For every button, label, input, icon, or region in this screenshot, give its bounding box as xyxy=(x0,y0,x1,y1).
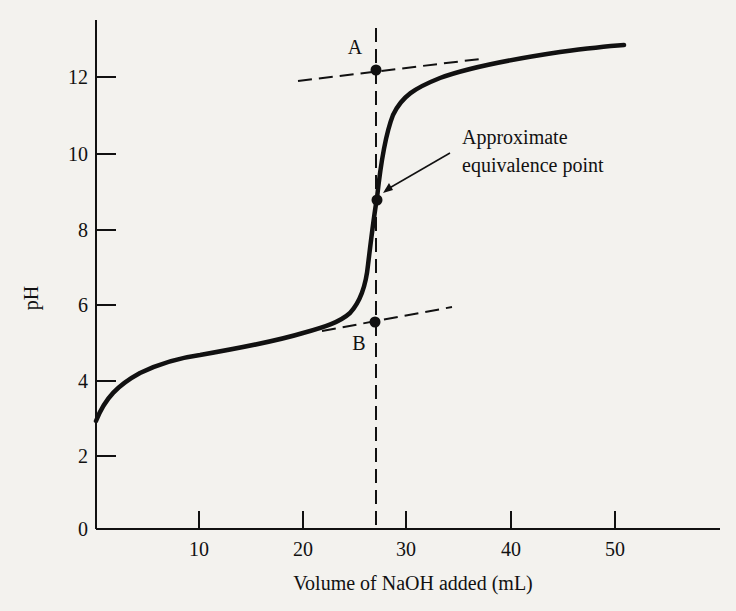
y-tick-label: 6 xyxy=(78,294,88,316)
upper-tangent-line xyxy=(298,59,480,81)
point-a-marker xyxy=(371,65,382,76)
equivalence-annotation: Approximate equivalence point xyxy=(383,126,604,193)
equivalence-label-line1: Approximate xyxy=(462,126,568,149)
x-ticks xyxy=(199,511,615,529)
x-tick-labels: 10 20 30 40 50 xyxy=(189,538,625,560)
y-tick-label: 10 xyxy=(68,143,88,165)
y-tick-label: 12 xyxy=(68,66,88,88)
y-axis-title: pH xyxy=(20,286,43,310)
y-tick-labels: 12 10 8 6 4 2 0 xyxy=(68,66,88,540)
y-tick-label: 0 xyxy=(78,518,88,540)
x-tick-label: 50 xyxy=(605,538,625,560)
equivalence-label-line2: equivalence point xyxy=(462,154,604,177)
point-b-marker xyxy=(370,317,381,328)
x-tick-label: 40 xyxy=(501,538,521,560)
equivalence-arrow-shaft xyxy=(386,153,450,190)
titration-chart: 12 10 8 6 4 2 0 10 20 30 40 50 Volume of… xyxy=(0,0,736,611)
arrow-head-icon xyxy=(383,183,393,193)
x-tick-label: 30 xyxy=(396,538,416,560)
y-tick-label: 8 xyxy=(78,219,88,241)
point-a-label: A xyxy=(348,36,363,58)
reference-lines xyxy=(298,28,480,529)
x-tick-label: 10 xyxy=(189,538,209,560)
x-axis-title: Volume of NaOH added (mL) xyxy=(293,572,533,595)
y-tick-label: 2 xyxy=(78,445,88,467)
y-tick-label: 4 xyxy=(78,370,88,392)
point-b-label: B xyxy=(352,332,365,354)
equivalence-point-marker xyxy=(372,195,383,206)
titration-curve xyxy=(96,45,624,421)
x-tick-label: 20 xyxy=(293,538,313,560)
